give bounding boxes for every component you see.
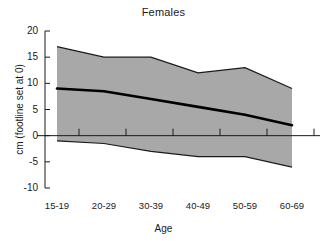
y-tick-label: -10	[8, 182, 38, 193]
y-tick-label: 20	[8, 25, 38, 36]
y-tick-label: 5	[8, 104, 38, 115]
chart-figure: Females cm (footline set at 0) Age -10-5…	[0, 0, 327, 241]
x-tick-label: 50-59	[222, 200, 268, 211]
y-tick-label: 0	[8, 130, 38, 141]
y-tick-label: 15	[8, 51, 38, 62]
y-tick-label: -5	[8, 156, 38, 167]
y-tick-label: 10	[8, 77, 38, 88]
x-tick-label: 40-49	[175, 200, 221, 211]
x-tick-label: 60-69	[269, 200, 315, 211]
x-tick-label: 30-39	[128, 200, 174, 211]
x-tick-label: 15-19	[34, 200, 80, 211]
confidence-band	[57, 47, 292, 167]
x-tick-label: 20-29	[81, 200, 127, 211]
y-tick-marks	[45, 31, 50, 188]
